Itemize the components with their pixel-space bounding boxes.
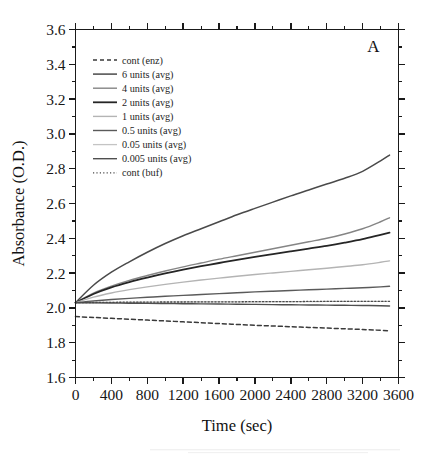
y-tick-label: 3.2 bbox=[46, 91, 65, 108]
legend-label: 0.05 units (avg) bbox=[122, 139, 186, 151]
x-tick-label: 3200 bbox=[347, 386, 378, 403]
y-tick-label: 2.0 bbox=[46, 299, 66, 316]
x-tick-label: 800 bbox=[136, 386, 160, 403]
x-axis-title: Time (sec) bbox=[202, 416, 272, 435]
x-tick-label: 1600 bbox=[204, 386, 235, 403]
legend-label: cont (enz) bbox=[122, 55, 163, 67]
y-tick-label: 3.6 bbox=[46, 21, 66, 38]
x-tick-label: 2400 bbox=[275, 386, 306, 403]
y-tick-label: 2.6 bbox=[46, 195, 66, 212]
y-tick-label: 3.4 bbox=[46, 56, 66, 73]
x-tick-label: 3600 bbox=[383, 386, 414, 403]
y-tick-label: 2.4 bbox=[46, 230, 66, 247]
y-axis-title: Absorbance (O.D.) bbox=[9, 141, 28, 267]
legend-label: 2 units (avg) bbox=[122, 97, 174, 109]
legend-label: 4 units (avg) bbox=[122, 83, 174, 95]
legend-label: 1 units (avg) bbox=[122, 111, 174, 123]
x-tick-label: 400 bbox=[100, 386, 124, 403]
x-tick-label: 0 bbox=[72, 386, 80, 403]
y-tick-label: 3.0 bbox=[46, 125, 66, 142]
x-tick-label: 1200 bbox=[168, 386, 199, 403]
y-tick-label: 1.6 bbox=[46, 369, 66, 386]
legend-label: 6 units (avg) bbox=[122, 69, 174, 81]
y-tick-label: 2.8 bbox=[46, 160, 66, 177]
x-tick-label: 2800 bbox=[311, 386, 342, 403]
y-tick-label: 2.2 bbox=[46, 265, 65, 282]
legend-label: cont (buf) bbox=[122, 167, 162, 179]
y-tick-label: 1.8 bbox=[46, 334, 66, 351]
panel-label-a: A bbox=[367, 37, 380, 56]
absorbance-vs-time-chart: 04008001200160020002400280032003600 1.61… bbox=[0, 0, 436, 457]
legend-label: 0.005 units (avg) bbox=[122, 153, 191, 165]
x-tick-label: 2000 bbox=[239, 386, 270, 403]
legend-label: 0.5 units (avg) bbox=[122, 125, 181, 137]
